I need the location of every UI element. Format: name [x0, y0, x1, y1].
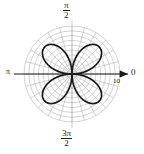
angle-label-three-pi-over-2-denominator: 2	[61, 139, 72, 148]
angle-label-pi: π	[6, 68, 10, 76]
radial-tick-label-10: 10	[113, 78, 120, 85]
angle-label-pi-over-2-numerator: π	[63, 1, 70, 10]
angle-label-pi-over-2: π 2	[63, 1, 70, 20]
angle-label-zero: 0	[131, 68, 136, 77]
angle-label-pi-over-2-denominator: 2	[63, 11, 70, 20]
angle-label-three-pi-over-2: 3π 2	[61, 129, 72, 148]
angle-label-three-pi-over-2-numerator: 3π	[61, 129, 72, 138]
